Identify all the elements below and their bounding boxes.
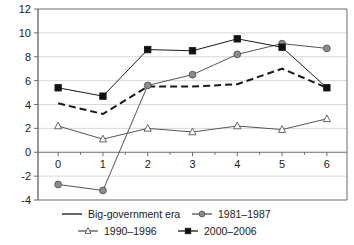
circle-marker-icon (55, 181, 62, 188)
x-tick-label: 4 (234, 158, 240, 170)
legend-label: 2000–2006 (204, 225, 257, 237)
y-tick-label: 0 (25, 146, 31, 158)
y-tick-label: 10 (19, 27, 31, 39)
circle-marker-icon (323, 45, 330, 52)
legend-label: 1981–1987 (218, 208, 271, 220)
circle-marker-icon (234, 51, 241, 58)
y-tick-label: 6 (25, 75, 31, 87)
y-tick-label: 2 (25, 122, 31, 134)
circle-marker-icon (144, 82, 151, 89)
x-tick-label: 5 (279, 158, 285, 170)
square-marker-icon (55, 85, 61, 91)
legend-label: Big-government era (88, 208, 180, 220)
circle-marker-icon (189, 71, 196, 78)
y-tick-label: 4 (25, 99, 31, 111)
x-tick-label: 6 (324, 158, 330, 170)
y-tick-label: 8 (25, 51, 31, 63)
circle-marker-icon (100, 187, 107, 194)
square-marker-icon (185, 228, 190, 233)
x-tick-label: 2 (145, 158, 151, 170)
square-marker-icon (324, 85, 330, 91)
x-tick-label: 3 (189, 158, 195, 170)
line-chart: -4-2024681012 0123456 Big-government era… (0, 0, 354, 245)
circle-marker-icon (199, 211, 205, 217)
legend-label: 1990–1996 (104, 225, 157, 237)
x-tick-label: 1 (100, 158, 106, 170)
y-tick-label: -4 (21, 194, 31, 206)
square-marker-icon (189, 48, 195, 54)
square-marker-icon (234, 36, 240, 42)
square-marker-icon (100, 93, 106, 99)
y-tick-label: -2 (21, 170, 31, 182)
chart-container: -4-2024681012 0123456 Big-government era… (0, 0, 354, 245)
square-marker-icon (145, 46, 151, 52)
square-marker-icon (279, 44, 285, 50)
y-tick-label: 12 (19, 3, 31, 15)
x-tick-label: 0 (55, 158, 61, 170)
